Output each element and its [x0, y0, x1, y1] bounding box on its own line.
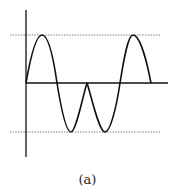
waveform-diagram — [0, 0, 175, 196]
figure-caption: (a) — [0, 172, 175, 187]
